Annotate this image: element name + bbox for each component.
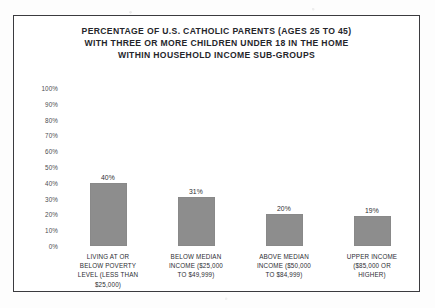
x-axis-category-label: BELOW MEDIAN INCOME ($25,000 TO $49,999) <box>152 252 240 289</box>
bar[interactable] <box>354 216 391 246</box>
x-axis-category-labels: LIVING AT OR BELOW POVERTY LEVEL (LESS T… <box>64 252 416 289</box>
x-axis-category-line: $25,000) <box>65 280 151 289</box>
x-axis-category-line: BELOW POVERTY <box>65 261 151 270</box>
y-axis-tick: 60% <box>14 148 58 155</box>
bar-value-label: 19% <box>328 207 416 214</box>
x-axis-category-line: HIGHER) <box>329 270 415 279</box>
bar-series: 40% 31% 20% 19% <box>64 88 416 246</box>
x-axis-category-line: INCOME ($25,000 <box>153 261 239 270</box>
bar-value-label: 40% <box>64 174 152 181</box>
bar-slot[interactable]: 31% <box>152 88 240 246</box>
chart-title-line-3: WITHIN HOUSEHOLD INCOME SUB-GROUPS <box>14 49 419 61</box>
chart-title-line-1: PERCENTAGE OF U.S. CATHOLIC PARENTS (AGE… <box>14 25 419 37</box>
y-axis-tick: 30% <box>14 195 58 202</box>
x-axis-category-line: LIVING AT OR <box>65 252 151 261</box>
x-axis-category-line: ABOVE MEDIAN <box>241 252 327 261</box>
x-axis-category-label: ABOVE MEDIAN INCOME ($50,000 TO $84,999) <box>240 252 328 289</box>
y-axis-tick: 70% <box>14 132 58 139</box>
chart-title: PERCENTAGE OF U.S. CATHOLIC PARENTS (AGE… <box>14 25 419 61</box>
x-axis-category-line: LEVEL (LESS THAN <box>65 270 151 279</box>
y-axis-tick: 0% <box>14 243 58 250</box>
bar-slot[interactable]: 40% <box>64 88 152 246</box>
y-axis-tick: 50% <box>14 164 58 171</box>
chart-title-line-2: WITH THREE OR MORE CHILDREN UNDER 18 IN … <box>14 37 419 49</box>
x-axis-category-label: UPPER INCOME ($85,000 OR HIGHER) <box>328 252 416 289</box>
x-axis-category-line: INCOME ($50,000 <box>241 261 327 270</box>
bar[interactable] <box>90 183 127 246</box>
y-axis-tick: 10% <box>14 227 58 234</box>
x-axis-category-line: TO $49,999) <box>153 270 239 279</box>
y-axis-tick: 20% <box>14 211 58 218</box>
x-axis-category-line: BELOW MEDIAN <box>153 252 239 261</box>
bar-slot[interactable]: 19% <box>328 88 416 246</box>
y-axis-tick: 40% <box>14 179 58 186</box>
x-axis-category-line: TO $84,999) <box>241 270 327 279</box>
y-axis-tick: 100% <box>14 85 58 92</box>
bar[interactable] <box>266 214 303 246</box>
x-axis-category-line: ($85,000 OR <box>329 261 415 270</box>
x-axis-category-line: UPPER INCOME <box>329 252 415 261</box>
bar-value-label: 31% <box>152 188 240 195</box>
x-axis-category-label: LIVING AT OR BELOW POVERTY LEVEL (LESS T… <box>64 252 152 289</box>
bar[interactable] <box>178 197 215 246</box>
bar-slot[interactable]: 20% <box>240 88 328 246</box>
bar-value-label: 20% <box>240 205 328 212</box>
y-axis-tick: 80% <box>14 116 58 123</box>
y-axis: 100% 90% 80% 70% 60% 50% 40% 30% 20% 10%… <box>14 88 60 246</box>
chart-frame: PERCENTAGE OF U.S. CATHOLIC PARENTS (AGE… <box>13 15 420 292</box>
y-axis-tick: 90% <box>14 100 58 107</box>
